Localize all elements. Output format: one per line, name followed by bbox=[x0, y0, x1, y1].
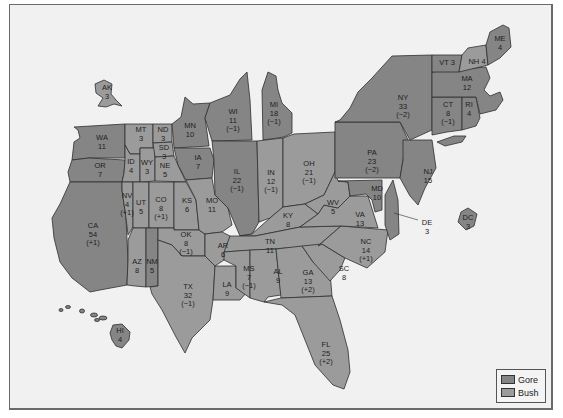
legend-label-gore: Gore bbox=[518, 375, 538, 385]
label-NJ: NJ15 bbox=[423, 168, 432, 185]
label-AZ: AZ8 bbox=[132, 258, 142, 275]
label-MO: MO11 bbox=[206, 197, 218, 214]
label-IL: IL22(−1) bbox=[230, 168, 244, 194]
label-TX: TX32(−1) bbox=[181, 283, 195, 309]
label-NC: NC14(+1) bbox=[359, 238, 373, 264]
label-ND: ND3 bbox=[158, 126, 169, 143]
label-DE: DE3 bbox=[422, 219, 432, 236]
label-MD: MD10 bbox=[371, 185, 383, 202]
label-ME: ME4 bbox=[494, 35, 505, 52]
legend: Gore Bush bbox=[496, 369, 546, 403]
label-ID: ID4 bbox=[127, 158, 135, 175]
label-SC: SC8 bbox=[339, 265, 349, 282]
label-CT: CT8(−1) bbox=[441, 101, 455, 127]
label-FL: FL25(+2) bbox=[319, 341, 333, 367]
label-MA: MA12 bbox=[461, 75, 472, 92]
label-AR: AR6 bbox=[218, 242, 228, 259]
label-NE: NE5 bbox=[160, 162, 170, 179]
label-MN: MN10 bbox=[184, 122, 196, 139]
label-KS: KS6 bbox=[182, 197, 192, 214]
label-WY: WY3 bbox=[141, 159, 153, 176]
label-NY: NY33(−2) bbox=[396, 94, 410, 120]
label-NM: NM5 bbox=[146, 258, 158, 275]
label-WA: WA11 bbox=[96, 134, 108, 151]
label-UT: UT5 bbox=[136, 199, 146, 216]
label-NV: NV4(+1) bbox=[120, 192, 134, 218]
label-IN: IN12(−1) bbox=[264, 169, 278, 195]
label-WI: WI11(−1) bbox=[226, 108, 240, 134]
label-CO: CO8(+1) bbox=[154, 196, 168, 222]
legend-item-bush: Bush bbox=[501, 386, 541, 399]
long-island bbox=[437, 136, 466, 146]
label-LA: LA9 bbox=[222, 281, 231, 298]
label-OR: OR7 bbox=[94, 162, 105, 179]
label-KY: KY8 bbox=[283, 212, 293, 229]
label-NH: NH 4 bbox=[468, 58, 485, 67]
label-DC: DC3 bbox=[463, 214, 474, 231]
label-AL: AL9 bbox=[273, 268, 282, 285]
label-AK: AK3 bbox=[102, 84, 112, 101]
label-PA: PA23(−2) bbox=[365, 149, 379, 175]
label-VT: VT 3 bbox=[439, 59, 455, 68]
label-OK: OK8(−1) bbox=[179, 231, 193, 257]
label-HI: HI4 bbox=[116, 327, 124, 344]
state-FL[interactable] bbox=[264, 296, 350, 389]
label-MI: MI18(−1) bbox=[267, 101, 281, 127]
label-SD: SD3 bbox=[159, 144, 169, 161]
label-GA: GA13(+2) bbox=[301, 269, 315, 295]
label-OH: OH21(−1) bbox=[302, 160, 316, 186]
label-MT: MT3 bbox=[136, 126, 147, 143]
gore-swatch-icon bbox=[501, 375, 515, 384]
legend-item-gore: Gore bbox=[501, 373, 541, 386]
label-TN: TN11 bbox=[265, 238, 275, 255]
legend-label-bush: Bush bbox=[518, 388, 539, 398]
label-MS: MS7(−1) bbox=[242, 265, 256, 291]
label-IA: IA7 bbox=[194, 154, 201, 171]
label-VA: VA13 bbox=[355, 211, 364, 228]
label-CA: CA54(+1) bbox=[86, 222, 100, 248]
label-RI: RI4 bbox=[465, 101, 473, 118]
bush-swatch-icon bbox=[501, 388, 515, 397]
label-WV: WV5 bbox=[327, 199, 339, 216]
state-DE[interactable] bbox=[385, 180, 399, 240]
